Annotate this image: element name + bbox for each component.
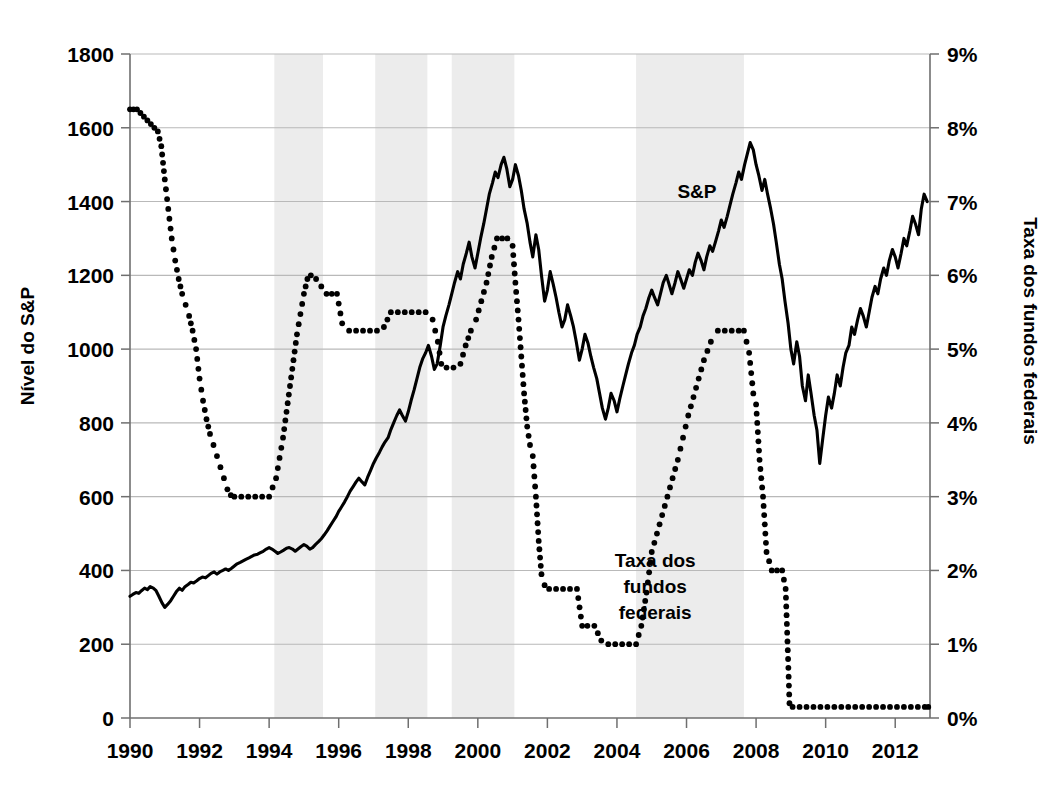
y2-tick-label: 2%: [947, 559, 978, 582]
shaded-band: [274, 54, 323, 718]
series-line-sp: [130, 143, 927, 608]
annotation-fedfunds-label: federais: [619, 602, 692, 623]
y2-tick-label: 1%: [947, 633, 978, 656]
x-tick-label: 2004: [594, 739, 641, 762]
x-tick-label: 2002: [524, 739, 571, 762]
y2-tick-label: 5%: [947, 338, 978, 361]
chart-container: 0200400600800100012001400160018000%1%2%3…: [0, 0, 1048, 789]
sp-fedfunds-chart: 0200400600800100012001400160018000%1%2%3…: [0, 0, 1048, 789]
series-dots-fedfunds: [127, 106, 931, 709]
y-axis-title: Nível do S&P: [17, 287, 38, 406]
x-tick-label: 2006: [663, 739, 710, 762]
shaded-band: [452, 54, 515, 718]
y-tick-label: 0: [102, 707, 114, 730]
x-tick-label: 2008: [733, 739, 780, 762]
annotation-sp-label: S&P: [677, 181, 716, 202]
y2-tick-label: 7%: [947, 191, 978, 214]
shaded-band: [375, 54, 427, 718]
y-tick-label: 1400: [67, 191, 114, 214]
y-tick-label: 200: [79, 633, 114, 656]
x-tick-label: 1990: [107, 739, 154, 762]
x-tick-label: 2010: [802, 739, 849, 762]
y-tick-label: 600: [79, 486, 114, 509]
y2-tick-label: 0%: [947, 707, 978, 730]
y2-tick-label: 4%: [947, 412, 978, 435]
x-tick-label: 2000: [454, 739, 501, 762]
x-tick-label: 1994: [246, 739, 293, 762]
y-tick-label: 1600: [67, 117, 114, 140]
y2-tick-label: 8%: [947, 117, 978, 140]
y2-axis-title: Taxa dos fundos federais: [1020, 217, 1041, 445]
x-tick-label: 1998: [385, 739, 432, 762]
annotation-fedfunds-label: fundos: [624, 576, 687, 597]
y-tick-label: 400: [79, 559, 114, 582]
y2-tick-label: 9%: [947, 43, 978, 66]
y2-tick-label: 3%: [947, 486, 978, 509]
y2-tick-label: 6%: [947, 264, 978, 287]
y-tick-label: 1000: [67, 338, 114, 361]
y-tick-label: 1800: [67, 43, 114, 66]
annotation-fedfunds-label: Taxa dos: [615, 550, 696, 571]
y-tick-label: 1200: [67, 264, 114, 287]
x-tick-label: 1996: [315, 739, 362, 762]
x-tick-label: 1992: [176, 739, 223, 762]
x-tick-label: 2012: [872, 739, 919, 762]
y-tick-label: 800: [79, 412, 114, 435]
